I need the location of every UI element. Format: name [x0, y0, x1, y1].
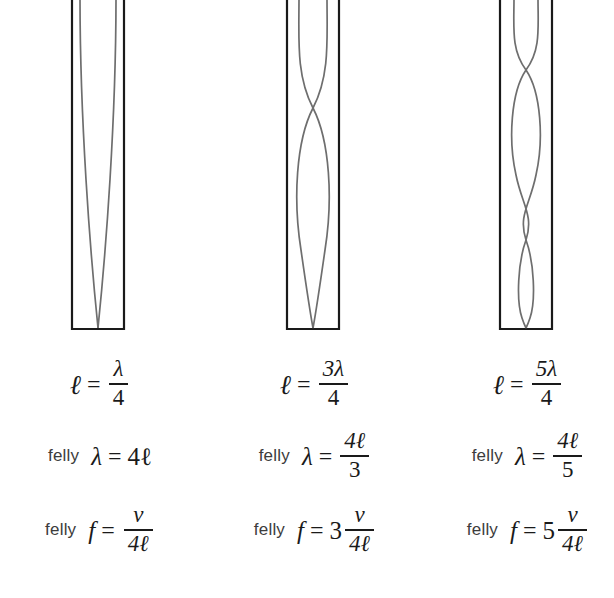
fraction-numerator: λ [109, 357, 127, 383]
fraction: 4ℓ 3 [340, 429, 369, 482]
fraction-numerator: v [351, 503, 369, 529]
lambda-symbol: λ [515, 444, 526, 469]
equals-sign: = [319, 444, 333, 468]
equals-sign: = [101, 518, 115, 542]
fraction: v 4ℓ [558, 503, 587, 556]
tube-svg-2 [283, 0, 343, 332]
length-symbol: ℓ [280, 371, 291, 398]
fraction-numerator: 4ℓ [553, 429, 582, 455]
lambda-symbol: λ [302, 444, 313, 469]
equals-sign: = [108, 444, 122, 468]
frequency-equation-3: felly f = 5 v 4ℓ [428, 500, 614, 560]
equals-sign: = [523, 518, 537, 542]
equals-sign: = [87, 372, 101, 396]
fraction: 3λ 4 [319, 357, 348, 410]
fraction: λ 4 [109, 357, 129, 410]
fraction-denominator: 4 [109, 385, 129, 411]
fraction-numerator: 3λ [319, 357, 348, 383]
row-tag: felly [45, 520, 76, 540]
fraction: v 4ℓ [345, 503, 374, 556]
wave-envelope-2 [297, 0, 329, 328]
length-equation-3: ℓ = 5λ 4 [428, 358, 614, 410]
fraction-denominator: 4 [537, 385, 557, 411]
tube-outline-3 [499, 0, 553, 330]
frequency-equation-1: felly f = v 4ℓ [0, 500, 200, 560]
length-equation-1: ℓ = λ 4 [0, 358, 200, 410]
frequency-symbol: f [88, 518, 95, 543]
fraction-denominator: 5 [558, 457, 578, 483]
row-tag: felly [48, 446, 79, 466]
figure-canvas: ℓ = λ 4 felly λ = 4ℓ felly f = [0, 0, 614, 598]
lambda-symbol: λ [91, 444, 102, 469]
fraction-denominator: 4ℓ [124, 531, 153, 557]
wavelength-equation-3: felly λ = 4ℓ 5 [428, 428, 614, 484]
tube-outline-2 [286, 0, 340, 330]
frequency-equation-2: felly f = 3 v 4ℓ [215, 500, 415, 560]
wavelength-equation-1: felly λ = 4ℓ [0, 428, 200, 484]
fraction: 5λ 4 [532, 357, 561, 410]
fraction: v 4ℓ [124, 503, 153, 556]
length-symbol: ℓ [493, 371, 504, 398]
tube-outline-1 [71, 0, 125, 330]
tube-harmonic-3 [283, 0, 343, 332]
fraction-numerator: 5λ [532, 357, 561, 383]
fraction-denominator: 4ℓ [345, 531, 374, 557]
fraction-denominator: 4 [324, 385, 344, 411]
frequency-coefficient: 3 [330, 518, 343, 543]
tube-svg-1 [68, 0, 128, 332]
row-tag: felly [254, 520, 285, 540]
equals-sign: = [510, 372, 524, 396]
fraction-numerator: v [129, 503, 147, 529]
frequency-symbol: f [297, 518, 304, 543]
tube-svg-3 [496, 0, 556, 332]
wavelength-equation-2: felly λ = 4ℓ 3 [215, 428, 415, 484]
wave-envelope-3 [512, 0, 541, 328]
frequency-symbol: f [510, 518, 517, 543]
tube-harmonic-1 [68, 0, 128, 332]
wavelength-value: 4ℓ [128, 444, 152, 469]
length-equation-2: ℓ = 3λ 4 [215, 358, 415, 410]
fraction-numerator: 4ℓ [340, 429, 369, 455]
length-symbol: ℓ [70, 371, 81, 398]
equals-sign: = [310, 518, 324, 542]
wave-envelope-1 [80, 0, 116, 328]
row-tag: felly [467, 520, 498, 540]
fraction-denominator: 3 [345, 457, 365, 483]
frequency-coefficient: 5 [543, 518, 556, 543]
row-tag: felly [472, 446, 503, 466]
tube-harmonic-5 [496, 0, 556, 332]
harmonic-column-2: ℓ = 3λ 4 felly λ = 4ℓ 3 [215, 0, 415, 598]
fraction-numerator: v [564, 503, 582, 529]
equals-sign: = [532, 444, 546, 468]
harmonic-column-3: ℓ = 5λ 4 felly λ = 4ℓ 5 [428, 0, 614, 598]
fraction-denominator: 4ℓ [558, 531, 587, 557]
harmonic-column-1: ℓ = λ 4 felly λ = 4ℓ felly f = [0, 0, 200, 598]
equals-sign: = [297, 372, 311, 396]
row-tag: felly [259, 446, 290, 466]
fraction: 4ℓ 5 [553, 429, 582, 482]
